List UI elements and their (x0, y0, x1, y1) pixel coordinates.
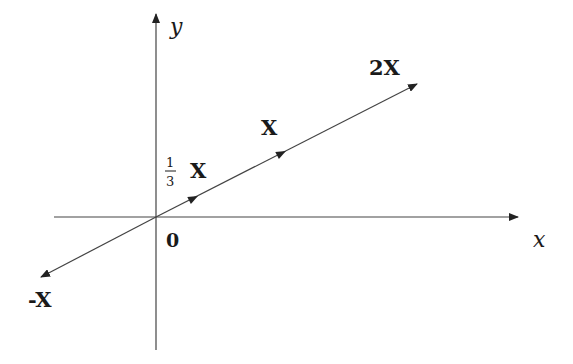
origin-label: 0 (166, 229, 179, 251)
two-x-label: 2X (369, 55, 401, 80)
third-numerator: 1 (166, 155, 174, 170)
arrowhead-third-x (187, 192, 200, 204)
third-denominator: 3 (166, 174, 174, 189)
third-x-label: X (190, 158, 207, 183)
neg-x-label: -X (28, 287, 52, 312)
y-axis-label: y (169, 14, 183, 39)
arrowhead-x (275, 147, 288, 159)
x-axis-label: x (533, 227, 546, 252)
vector-diagram: y x 0 -X 1 3 X X 2X (0, 0, 573, 364)
x-label: X (261, 115, 278, 140)
vector-neg-x (41, 217, 156, 277)
